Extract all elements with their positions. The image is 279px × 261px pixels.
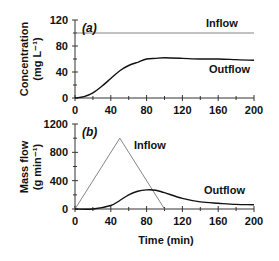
y-tick-label: 40 <box>56 66 68 78</box>
y-tick-label: 1200 <box>44 118 68 130</box>
x-tick-label: 200 <box>245 215 263 227</box>
panel-b-outflow-label: Outflow <box>204 184 245 196</box>
x-tick-label: 120 <box>173 104 191 116</box>
panel-a-y-title: Concentration <box>18 21 30 96</box>
x-tick-label: 40 <box>105 215 117 227</box>
panel-b-inflow-label: Inflow <box>134 139 166 151</box>
y-tick-label: 800 <box>50 146 68 158</box>
panel-a-y-units: (mg L⁻¹) <box>31 37 43 81</box>
x-tick-label: 0 <box>72 104 78 116</box>
x-tick-label: 80 <box>140 104 152 116</box>
y-tick-label: 0 <box>62 203 68 215</box>
y-tick-label: 0 <box>62 92 68 104</box>
panel-a-inflow-label: Inflow <box>206 17 238 29</box>
chart-figure: 04080120 04080120160200 (a) Inflow Outfl… <box>0 0 279 261</box>
panel-a-outflow-label: Outflow <box>209 63 250 75</box>
panel-b-y-units: (g min⁻¹) <box>31 144 43 191</box>
y-tick-label: 400 <box>50 175 68 187</box>
x-tick-label: 160 <box>209 215 227 227</box>
x-tick-label: 200 <box>245 104 263 116</box>
panel-a-y-ticks: 04080120 <box>50 14 78 104</box>
x-tick-label: 120 <box>173 215 191 227</box>
panel-b-y-title: Mass flow <box>18 140 30 193</box>
x-tick-label: 80 <box>140 215 152 227</box>
x-axis-title: Time (min) <box>138 234 194 246</box>
panel-a: 04080120 04080120160200 (a) Inflow Outfl… <box>18 14 263 116</box>
x-tick-label: 0 <box>72 215 78 227</box>
x-tick-label: 160 <box>209 104 227 116</box>
panel-b-y-ticks: 04008001200 <box>44 118 78 215</box>
panel-b-label: (b) <box>82 125 97 139</box>
panel-a-label: (a) <box>82 21 97 35</box>
panel-b: 04008001200 04080120160200 (b) Inflow Ou… <box>18 118 263 246</box>
y-tick-label: 80 <box>56 40 68 52</box>
x-tick-label: 40 <box>105 104 117 116</box>
y-tick-label: 120 <box>50 14 68 26</box>
